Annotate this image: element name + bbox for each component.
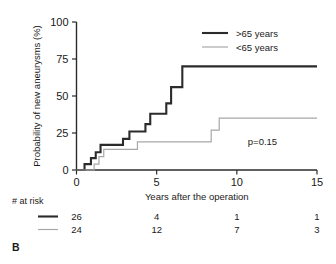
risk-value: 1 — [234, 211, 239, 222]
risk-value: 7 — [234, 224, 239, 235]
chart-canvas: 0255075100 051015 Probability of new ane… — [0, 0, 336, 264]
axes — [77, 22, 318, 170]
risk-value: 4 — [154, 211, 159, 222]
x-axis-ticks: 051015 — [73, 170, 323, 188]
x-tick-label: 10 — [231, 176, 243, 188]
y-tick-label: 75 — [56, 53, 68, 65]
panel-label: B — [12, 241, 20, 253]
legend-label-over65: >65 years — [236, 28, 278, 39]
survival-curves — [77, 66, 318, 170]
risk-value: 1 — [314, 211, 319, 222]
y-tick-label: 0 — [62, 164, 68, 176]
risk-value: 26 — [71, 211, 82, 222]
y-axis-title: Probability of new aneurysms (%) — [31, 25, 42, 167]
y-tick-label: 100 — [50, 16, 68, 28]
risk-table-title: # at risk — [12, 196, 44, 206]
y-tick-label: 50 — [56, 90, 68, 102]
chart-legend: >65 years<65 years — [202, 28, 278, 53]
y-tick-label: 25 — [56, 127, 68, 139]
chart-annotations: p=0.15 — [248, 136, 277, 147]
risk-value: 3 — [314, 224, 319, 235]
y-axis-ticks: 0255075100 — [50, 16, 76, 176]
x-axis-title: Years after the operation — [145, 191, 249, 202]
x-tick-label: 0 — [73, 176, 79, 188]
risk-value: 12 — [151, 224, 162, 235]
x-tick-label: 15 — [311, 176, 323, 188]
x-tick-label: 5 — [154, 176, 160, 188]
survival-chart-figure: 0255075100 051015 Probability of new ane… — [0, 0, 336, 264]
annotation-p-value: p=0.15 — [248, 136, 277, 147]
legend-label-under65: <65 years — [236, 42, 278, 53]
risk-value: 24 — [71, 224, 82, 235]
